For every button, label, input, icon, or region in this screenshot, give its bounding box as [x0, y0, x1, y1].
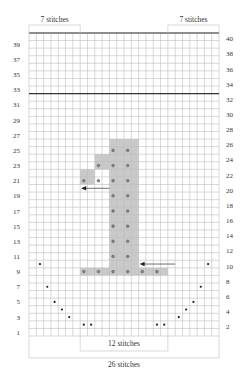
row-label: 25 [13, 147, 21, 155]
purl-stitch-icon [126, 225, 129, 228]
row-label: 19 [13, 192, 21, 200]
purl-stitch-icon [112, 164, 115, 167]
bracket-line [29, 25, 80, 33]
purl-stitch-icon [112, 179, 115, 182]
bracket-label: 7 stitches [41, 15, 69, 24]
purl-stitch-icon [97, 179, 100, 182]
purl-stitch-icon [112, 225, 115, 228]
row-label: 24 [226, 156, 234, 164]
row-label: 21 [13, 177, 21, 185]
row-label: 12 [226, 247, 234, 255]
row-label: 37 [13, 56, 21, 64]
purl-stitch-icon [126, 255, 129, 258]
row-label: 2 [226, 323, 230, 331]
stitch-bracket: 7 stitches [29, 15, 80, 33]
row-label: 34 [226, 81, 234, 89]
purl-stitch-icon [112, 270, 115, 273]
purl-stitch-icon [83, 270, 86, 273]
row-label: 38 [226, 50, 234, 58]
arrow-head [140, 262, 145, 266]
row-label: 35 [13, 71, 21, 79]
row-label: 28 [226, 126, 234, 134]
stitch-dot-icon [156, 324, 158, 326]
purl-stitch-icon [126, 210, 129, 213]
row-label: 8 [226, 278, 230, 286]
chart-grid [29, 33, 219, 336]
purl-stitch-icon [126, 179, 129, 182]
row-label: 6 [226, 293, 230, 301]
row-label: 30 [226, 111, 234, 119]
stitch-dot-icon [178, 316, 180, 318]
stitch-dot-icon [53, 301, 55, 303]
stitch-dot-icon [39, 263, 41, 265]
row-label: 22 [226, 172, 234, 180]
purl-stitch-icon [126, 164, 129, 167]
purl-stitch-icon [112, 210, 115, 213]
arrow-left-icon [81, 186, 109, 190]
row-label: 13 [13, 238, 21, 246]
arrow-head [81, 186, 86, 190]
row-label: 23 [13, 162, 21, 170]
bracket-label: 12 stitches [108, 339, 140, 348]
row-label: 26 [226, 141, 234, 149]
row-label: 4 [226, 308, 230, 316]
row-label: 39 [13, 41, 21, 49]
stitch-bracket: 12 stitches [80, 336, 168, 351]
row-label: 1 [17, 329, 21, 337]
purl-stitch-icon [126, 240, 129, 243]
stitch-dot-icon [46, 286, 48, 288]
row-label: 32 [226, 96, 234, 104]
stitch-dot-icon [68, 316, 70, 318]
left-row-labels: 39373533312927252321191715131197531 [13, 41, 21, 337]
stitch-dot-icon [192, 301, 194, 303]
stitch-dot-icon [185, 308, 187, 310]
row-label: 15 [13, 223, 21, 231]
row-label: 29 [13, 117, 21, 125]
purl-stitch-icon [141, 270, 144, 273]
purl-stitch-icon [112, 149, 115, 152]
purl-stitch-icon [112, 195, 115, 198]
purl-stitch-icon [97, 164, 100, 167]
row-label: 7 [17, 283, 21, 291]
purl-stitch-icon [97, 270, 100, 273]
stitch-dot-icon [163, 324, 165, 326]
arrow-left-icon [140, 262, 176, 266]
bracket-line [168, 25, 219, 33]
row-label: 14 [226, 232, 234, 240]
bracket-label: 26 stitches [108, 360, 140, 369]
stitch-dot-icon [83, 324, 85, 326]
bracket-label: 7 stitches [179, 15, 207, 24]
row-label: 17 [13, 208, 21, 216]
knitting-chart: 7 stitches7 stitches12 stitches26 stitch… [0, 0, 249, 382]
row-label: 18 [226, 202, 234, 210]
purl-stitch-icon [112, 240, 115, 243]
row-label: 20 [226, 187, 234, 195]
row-label: 40 [226, 35, 234, 43]
stitch-dot-icon [90, 324, 92, 326]
row-label: 16 [226, 217, 234, 225]
row-label: 33 [13, 86, 21, 94]
row-label: 36 [226, 66, 234, 74]
row-label: 5 [17, 298, 21, 306]
row-label: 3 [17, 314, 21, 322]
purl-stitch-icon [112, 255, 115, 258]
row-label: 9 [17, 268, 21, 276]
purl-stitch-icon [156, 270, 159, 273]
row-label: 27 [13, 132, 21, 140]
stitch-dot-icon [207, 263, 209, 265]
row-label: 31 [13, 101, 21, 109]
right-row-labels: 403836343230282624222018161412108642 [226, 35, 234, 331]
stitch-bracket: 7 stitches [168, 15, 219, 33]
stitch-dot-icon [200, 286, 202, 288]
purl-stitch-icon [126, 195, 129, 198]
row-label: 10 [226, 263, 234, 271]
stitch-dot-icon [61, 308, 63, 310]
purl-stitch-icon [126, 149, 129, 152]
purl-stitch-icon [126, 270, 129, 273]
purl-stitch-icon [83, 179, 86, 182]
row-label: 11 [13, 253, 20, 261]
